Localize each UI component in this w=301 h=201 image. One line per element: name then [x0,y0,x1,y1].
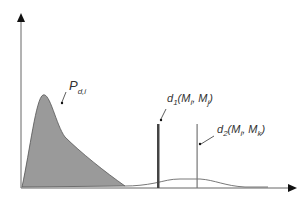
d2-mid: , M [242,123,257,135]
label-p-subscript: d,i [78,87,86,96]
d2-bar [197,124,198,188]
distance-distribution-diagram [0,0,301,201]
d1-end: ) [209,92,213,104]
d2-end: ) [261,123,265,135]
label-p-text: P [69,78,78,93]
d1-pointer-tip-icon [160,119,162,121]
x-axis-arrow-icon [288,184,297,192]
label-p-di: Pd,i [69,78,86,96]
p-pointer-tip-icon [61,102,63,104]
d1-pointer [161,109,166,119]
label-d1: d1(Mi, Mj) [167,92,213,107]
d1-args: (M [178,92,191,104]
d2-pointer [201,136,214,144]
p-pointer [62,92,66,102]
d2-pointer-tip-icon [199,143,201,145]
d1-mid: , M [192,92,207,104]
distribution-shaded-area [22,95,125,187]
d1-bar [157,124,160,188]
d2-args: (M [228,123,241,135]
label-d2: d2(Mi, Mk) [217,123,265,138]
y-axis-arrow-icon [17,13,25,22]
